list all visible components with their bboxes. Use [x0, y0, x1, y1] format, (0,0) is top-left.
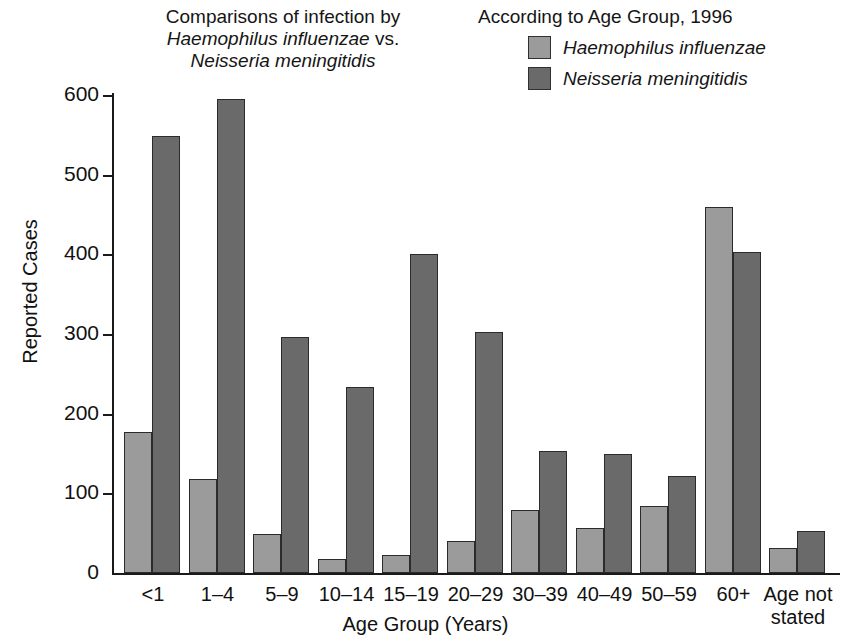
- bar-10–14-series-1: [346, 387, 374, 573]
- x-axis-line: [112, 573, 840, 575]
- y-tick-mark: [103, 334, 113, 336]
- x-axis-title: Age Group (Years): [0, 613, 851, 636]
- bar-1–4-series-1: [217, 99, 245, 573]
- y-axis-title: Reported Cases: [19, 182, 42, 402]
- bar-5–9-series-0: [253, 534, 281, 573]
- y-tick-label: 500: [37, 162, 99, 186]
- bar-age-not-stated-series-0: [769, 548, 797, 573]
- y-tick-mark: [103, 493, 113, 495]
- y-tick-label: 100: [37, 480, 99, 504]
- bar-<1-series-0: [124, 432, 152, 573]
- y-tick-mark: [103, 175, 113, 177]
- y-tick-label: 200: [37, 401, 99, 425]
- y-tick-mark: [103, 95, 113, 97]
- bar-5–9-series-1: [281, 337, 309, 573]
- bar-50–59-series-1: [668, 476, 696, 573]
- bar-30–39-series-0: [511, 510, 539, 573]
- bar-15–19-series-1: [410, 254, 438, 573]
- bar-age-not-stated-series-1: [797, 531, 825, 573]
- y-tick-label: 400: [37, 241, 99, 265]
- bar-60+-series-0: [705, 207, 733, 573]
- bar-40–49-series-1: [604, 454, 632, 574]
- bar-30–39-series-1: [539, 451, 567, 573]
- y-tick-mark: [103, 254, 113, 256]
- bar-1–4-series-0: [189, 479, 217, 573]
- bar-20–29-series-0: [447, 541, 475, 573]
- y-tick-label: 600: [37, 82, 99, 106]
- bar-60+-series-1: [733, 252, 761, 573]
- y-tick-label: 0: [37, 560, 99, 584]
- bar-10–14-series-0: [318, 559, 346, 573]
- y-tick-mark: [103, 414, 113, 416]
- y-tick-label: 300: [37, 321, 99, 345]
- bar-20–29-series-1: [475, 332, 503, 573]
- bar-15–19-series-0: [382, 555, 410, 573]
- bar-40–49-series-0: [576, 528, 604, 573]
- bar-chart-plot-area: 0100200300400500600 <11–45–910–1415–1920…: [0, 0, 851, 640]
- bar-50–59-series-0: [640, 506, 668, 573]
- bar-<1-series-1: [152, 136, 180, 573]
